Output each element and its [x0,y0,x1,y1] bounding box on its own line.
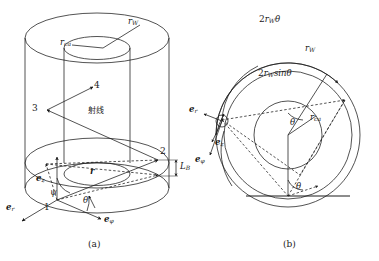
ephi-vector-arrow [57,200,101,219]
label-r-vector: r [90,167,94,176]
label-theta-center: θ [290,118,295,127]
panel-b-dashes [222,100,345,196]
rw-leader-line [103,25,140,48]
label-point-3: 3 [32,104,38,113]
label-ray-text: 射线 [88,107,104,115]
label-ez-panel-b: ez [215,138,224,147]
label-rw-panel-a: rW [128,17,138,26]
label-ephi-panel-b: eφ [195,155,205,164]
panel-b-linework [204,63,360,207]
panel-a-linework [22,13,178,221]
chord-dash-upper [222,100,345,120]
label-point-1: 1 [44,203,50,212]
rca-leader-line [72,45,103,48]
label-er-panel-b: er [189,105,197,114]
label-er-panel-a: er [6,203,14,212]
label-point-2: 2 [160,147,166,156]
incoming-arc-upper [222,66,258,121]
annulus-top-inner-ellipse [64,163,130,186]
label-ephi-panel-a: eφ [104,215,114,224]
caption-panel-a: (a) [88,240,100,249]
label-rca-panel-b: rca [310,113,321,122]
label-theta-angle-panel-a: θ [83,196,88,205]
outer-cylinder-top-ellipse [25,13,169,63]
ray-segment-3-4 [47,87,93,110]
label-chord-length: 2rWsinθ [258,69,292,78]
dash-bottom-exit [288,186,318,196]
label-arc-length: 2rWθ [259,15,280,24]
label-psi-angle: ψ [50,188,57,197]
panel-b-er-arrow [204,114,222,121]
ray-segment-1-2 [57,160,158,200]
caption-panel-b: (b) [283,240,296,249]
label-point-4: 4 [94,81,100,90]
label-ez-panel-a: ez [36,174,45,183]
label-lb-panel-a: LB [180,162,190,171]
label-rw-panel-b: rW [305,44,315,53]
theta-angle-arrow [89,196,95,208]
figure-container: rW rca 4 3 2 1 射线 ez er eφ ψ θ r LB (a) … [0,0,379,261]
label-theta-bottom: θ [296,182,301,191]
figure-linework [0,0,379,261]
label-rca-panel-a: rca [60,38,71,47]
dash-left-to-bottom [222,120,288,196]
inner-bore-top-ellipse [64,37,130,60]
